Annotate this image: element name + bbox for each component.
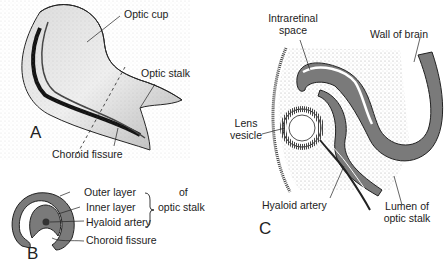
panel-letter-c: C xyxy=(259,220,271,238)
label-of: of xyxy=(179,186,188,198)
label-lumen-line1: Lumen of xyxy=(372,200,442,212)
panel-letter-b: B xyxy=(27,245,38,263)
label-optic-stalk: Optic stalk xyxy=(141,67,190,79)
label-intraretinal-line2: space xyxy=(258,24,328,36)
label-choroid-fissure-a: Choroid fissure xyxy=(52,148,123,160)
label-optic-stalk-b: optic stalk xyxy=(158,201,205,213)
label-hyaloid-artery-b: Hyaloid artery xyxy=(86,216,151,228)
label-outer-layer: Outer layer xyxy=(84,186,136,198)
label-choroid-fissure-b: Choroid fissure xyxy=(86,234,157,246)
panel-letter-a: A xyxy=(30,124,41,142)
panel-a-drawing xyxy=(0,0,190,160)
hyaloid-artery-dot xyxy=(43,219,50,226)
label-lens-line1: Lens xyxy=(225,117,267,129)
label-lens-line2: vesicle xyxy=(225,129,267,141)
label-lumen-line2: optic stalk xyxy=(372,212,442,224)
label-wall-of-brain: Wall of brain xyxy=(370,28,428,40)
label-inner-layer: Inner layer xyxy=(86,201,136,213)
label-lumen-optic-stalk: Lumen of optic stalk xyxy=(372,200,442,224)
label-lens-vesicle: Lens vesicle xyxy=(225,117,267,141)
label-optic-cup: Optic cup xyxy=(124,8,168,20)
label-intraretinal-line1: Intraretinal xyxy=(258,12,328,24)
label-intraretinal-space: Intraretinal space xyxy=(258,12,328,36)
label-hyaloid-artery-c: Hyaloid artery xyxy=(262,199,327,211)
panel-c-drawing xyxy=(262,38,443,210)
figure-canvas xyxy=(0,0,445,269)
